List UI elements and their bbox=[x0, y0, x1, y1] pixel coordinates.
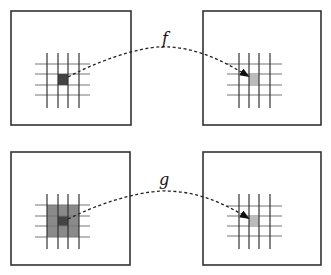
diagram-canvas: f bbox=[0, 0, 331, 275]
panel-box bbox=[203, 11, 321, 125]
function-label-g: g bbox=[159, 170, 169, 189]
function-label-f: f bbox=[161, 29, 171, 48]
panel-f-target bbox=[203, 11, 321, 125]
target-pixel-light bbox=[249, 216, 259, 226]
panel-box bbox=[11, 11, 131, 125]
panel-box bbox=[203, 152, 321, 265]
panel-g-target bbox=[203, 152, 321, 265]
source-pixel-dark bbox=[58, 74, 68, 85]
panel-f-source bbox=[11, 11, 131, 125]
panel-g-source bbox=[11, 152, 130, 265]
source-pixel-dark bbox=[58, 216, 68, 226]
target-pixel-light bbox=[249, 74, 259, 85]
